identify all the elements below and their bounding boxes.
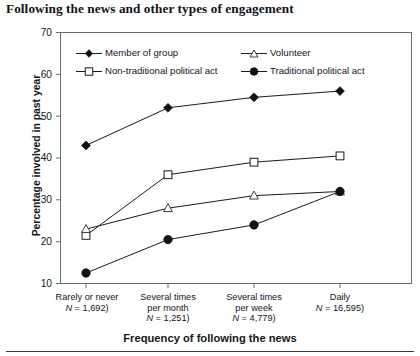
y-tick-marks (56, 33, 60, 284)
legend-label: Non-traditional political act (105, 65, 218, 76)
data-point-open-square (336, 152, 344, 160)
filled-diamond-icon (75, 48, 103, 59)
x-tick-n: N = 4,779) (213, 313, 295, 324)
series-filled-diamond (82, 87, 345, 150)
data-point-filled-diamond (164, 103, 173, 112)
series-filled-circle (82, 187, 344, 277)
data-point-open-square (164, 171, 172, 179)
data-point-filled-diamond (250, 93, 259, 102)
x-tick-line: Several times (213, 292, 295, 303)
x-tick-line: Rarely or never (46, 292, 128, 303)
open-square-icon (75, 66, 103, 77)
data-point-filled-circle (82, 269, 90, 277)
series-layer (82, 87, 345, 278)
filled-circle-icon (240, 66, 268, 77)
chart-figure: Following the news and other types of en… (0, 0, 420, 356)
legend-label: Traditional political act (270, 65, 365, 76)
x-tick-line: Daily (299, 292, 381, 303)
data-point-open-square (250, 158, 258, 166)
x-tick-line: per month (127, 303, 209, 314)
x-tick-n: N = 1,692) (46, 303, 128, 314)
data-point-filled-circle (336, 187, 344, 195)
series-open-square (82, 152, 344, 239)
data-point-filled-diamond (336, 87, 345, 96)
x-tick-label-1: Several times per month N = 1,251) (127, 292, 209, 324)
bottom-divider (6, 351, 414, 352)
legend-label: Volunteer (270, 47, 311, 58)
x-tick-marks (86, 284, 340, 289)
data-point-filled-diamond (82, 141, 91, 150)
open-triangle-icon (240, 48, 268, 59)
x-axis-label: Frequency of following the news (0, 332, 420, 344)
x-tick-label-3: Daily N = 16,595) (299, 292, 381, 313)
legend-label: Member of group (105, 47, 178, 58)
data-point-filled-circle (164, 235, 172, 243)
x-tick-label-0: Rarely or never N = 1,692) (46, 292, 128, 313)
x-tick-label-2: Several times per week N = 4,779) (213, 292, 295, 324)
x-tick-n: N = 16,595) (299, 303, 381, 314)
x-tick-n: N = 1,251) (127, 313, 209, 324)
x-tick-line: Several times (127, 292, 209, 303)
data-point-filled-circle (250, 221, 258, 229)
x-tick-line: per week (213, 303, 295, 314)
